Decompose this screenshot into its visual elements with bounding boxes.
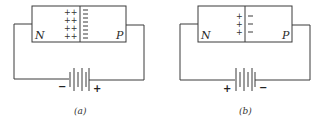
p-region-label-a: P (115, 29, 124, 42)
caption-a: (a) (74, 106, 87, 116)
panel-b: N P + + + + − (b) (180, 6, 310, 116)
panel-a: N P ++ ++ ++ ++ − + (a) (14, 6, 144, 116)
positive-charge-row: ++ (64, 32, 77, 41)
battery-icon-b (236, 68, 255, 91)
n-region-label-b: N (200, 29, 211, 42)
semiconductor-block-a (32, 6, 126, 42)
battery-icon-a (70, 68, 89, 91)
p-region-label-b: P (281, 29, 290, 42)
battery-negative-terminal-a: − (58, 81, 66, 92)
caption-b: (b) (239, 106, 252, 116)
n-region-label-a: N (34, 29, 45, 42)
positive-charge: + (236, 28, 243, 37)
battery-negative-terminal-b: − (259, 82, 267, 93)
pn-junction-figure: N P ++ ++ ++ ++ − + (a) (0, 0, 322, 127)
battery-positive-terminal-b: + (223, 83, 231, 94)
battery-positive-terminal-a: + (93, 83, 101, 94)
